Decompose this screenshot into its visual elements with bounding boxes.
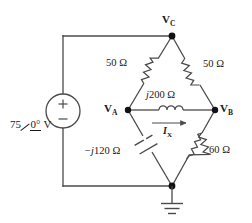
node-label-vc-subscript: C <box>170 19 175 28</box>
component-label-r2: 50 Ω <box>203 59 224 70</box>
wire-r3-gnd <box>172 159 187 186</box>
component-label-l1-rest: 200 Ω <box>149 89 175 100</box>
resistor-r1-symbol <box>142 58 160 84</box>
node-label-va-letter: V <box>104 102 112 114</box>
resistor-r2-symbol <box>182 59 200 85</box>
current-label-ix-subscript: X <box>167 131 172 139</box>
node-label-vb: VB <box>220 103 233 117</box>
component-label-r1: 50 Ω <box>106 58 127 69</box>
node-label-vc: VC <box>162 14 175 28</box>
wire-va-c1 <box>128 110 143 136</box>
node-label-va: VA <box>104 103 117 117</box>
wire-r2-vb <box>200 85 215 110</box>
capacitor-c1-symbol <box>135 135 158 154</box>
ac-bridge-circuit-diagram: VC VA VB 50 Ω 50 Ω j200 Ω −j120 Ω 60 Ω I… <box>0 0 252 223</box>
current-arrow-ix <box>152 121 186 126</box>
wire-vc-r2 <box>172 36 185 59</box>
wire-r1-vc <box>159 36 173 58</box>
current-arrow-head <box>181 121 187 126</box>
component-label-c1-rest: 120 Ω <box>94 145 120 156</box>
source-value-label: 750° V <box>10 119 51 130</box>
current-label-ix: IX <box>163 126 172 139</box>
node-dot-vc <box>169 33 176 40</box>
component-label-r3: 60 Ω <box>209 145 230 156</box>
branch-vc-vb <box>172 36 215 110</box>
wire-c1-gnd <box>152 152 172 186</box>
angle-symbol-icon: 0° <box>21 119 41 130</box>
node-dot-vb <box>212 107 218 113</box>
source-unit: V <box>43 118 51 130</box>
circuit-schematic-svg <box>0 0 252 223</box>
source-angle: 0° <box>30 118 41 131</box>
wire-va-r1 <box>128 84 144 110</box>
node-label-vc-letter: V <box>162 13 170 25</box>
source-magnitude: 75 <box>10 118 21 130</box>
component-label-c1: −j120 Ω <box>84 146 120 157</box>
inductor-l1-symbol <box>159 106 183 110</box>
node-label-vb-letter: V <box>220 102 228 114</box>
capacitor-plate-2 <box>140 144 158 154</box>
node-label-va-subscript: A <box>112 108 117 117</box>
wire-vb-r3 <box>202 110 215 133</box>
node-dot-va <box>125 107 131 113</box>
node-label-vb-subscript: B <box>228 108 233 117</box>
ground-symbol <box>161 186 183 214</box>
component-label-l1: j200 Ω <box>146 90 175 101</box>
node-dots <box>125 33 218 190</box>
component-label-c1-prefix: −j <box>84 145 94 156</box>
